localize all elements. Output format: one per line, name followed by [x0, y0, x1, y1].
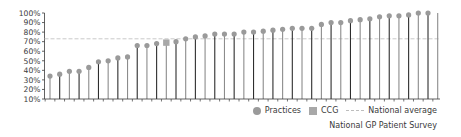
ccg-marker: [163, 39, 169, 45]
practice-marker: [328, 20, 333, 25]
y-axis: 100%90%80%70%60%50%40%30%20%10%: [19, 9, 45, 104]
y-tick-label: 70%: [24, 37, 41, 46]
legend-label-national-average: National average: [368, 106, 437, 115]
practice-marker: [154, 41, 159, 46]
practice-marker: [348, 18, 353, 23]
practice-marker: [183, 36, 188, 41]
x-axis: [45, 99, 441, 102]
y-tick-label: 20%: [24, 85, 41, 94]
practice-marker: [144, 43, 149, 48]
practice-marker: [290, 26, 295, 31]
chart: 100%90%80%70%60%50%40%30%20%10%: [0, 0, 461, 137]
practice-marker: [222, 31, 227, 36]
practice-marker: [387, 13, 392, 18]
legend: Practices CCG National average: [245, 106, 437, 115]
y-tick-label: 40%: [24, 66, 41, 75]
practice-marker: [425, 10, 430, 15]
practice-marker: [270, 28, 275, 33]
practice-marker: [212, 31, 217, 36]
practice-marker: [280, 27, 285, 32]
practice-marker: [67, 69, 72, 74]
source-caption: National GP Patient Survey: [329, 121, 437, 130]
legend-item-ccg: CCG: [309, 106, 338, 115]
practice-marker: [86, 65, 91, 70]
y-tick-label: 90%: [24, 18, 41, 27]
practice-marker: [241, 30, 246, 35]
circle-marker-icon: [253, 107, 261, 115]
legend-label-ccg: CCG: [321, 106, 338, 115]
practice-marker: [106, 58, 111, 63]
practice-marker: [232, 31, 237, 36]
legend-item-practices: Practices: [253, 106, 301, 115]
practice-marker: [115, 55, 120, 60]
practice-marker: [367, 16, 372, 21]
y-tick-label: 100%: [19, 9, 41, 18]
practice-marker: [406, 12, 411, 17]
practice-marker: [47, 73, 52, 78]
practice-marker: [319, 22, 324, 27]
legend-item-national-average: National average: [346, 106, 437, 115]
practice-marker: [299, 26, 304, 31]
practice-marker: [125, 54, 130, 59]
practice-stems: [47, 10, 437, 99]
practice-marker: [96, 59, 101, 64]
practice-marker: [251, 30, 256, 35]
practice-marker: [76, 69, 81, 74]
square-marker-icon: [309, 107, 317, 115]
practice-marker: [173, 39, 178, 44]
y-tick-label: 30%: [24, 76, 41, 85]
y-tick-label: 50%: [24, 57, 41, 66]
practice-marker: [338, 20, 343, 25]
lollipop-chart: 100%90%80%70%60%50%40%30%20%10%: [0, 0, 461, 137]
y-tick-label: 10%: [24, 95, 41, 104]
practice-marker: [377, 14, 382, 19]
dashed-line-icon: [346, 110, 364, 111]
practice-marker: [309, 26, 314, 31]
practice-marker: [135, 43, 140, 48]
practice-marker: [57, 72, 62, 77]
practice-marker: [261, 29, 266, 34]
practice-marker: [396, 13, 401, 18]
y-tick-label: 60%: [24, 47, 41, 56]
y-tick-label: 80%: [24, 28, 41, 37]
practice-marker: [202, 33, 207, 38]
practice-marker: [193, 34, 198, 39]
legend-label-practices: Practices: [265, 106, 301, 115]
practice-marker: [358, 17, 363, 22]
practice-marker: [416, 10, 421, 15]
